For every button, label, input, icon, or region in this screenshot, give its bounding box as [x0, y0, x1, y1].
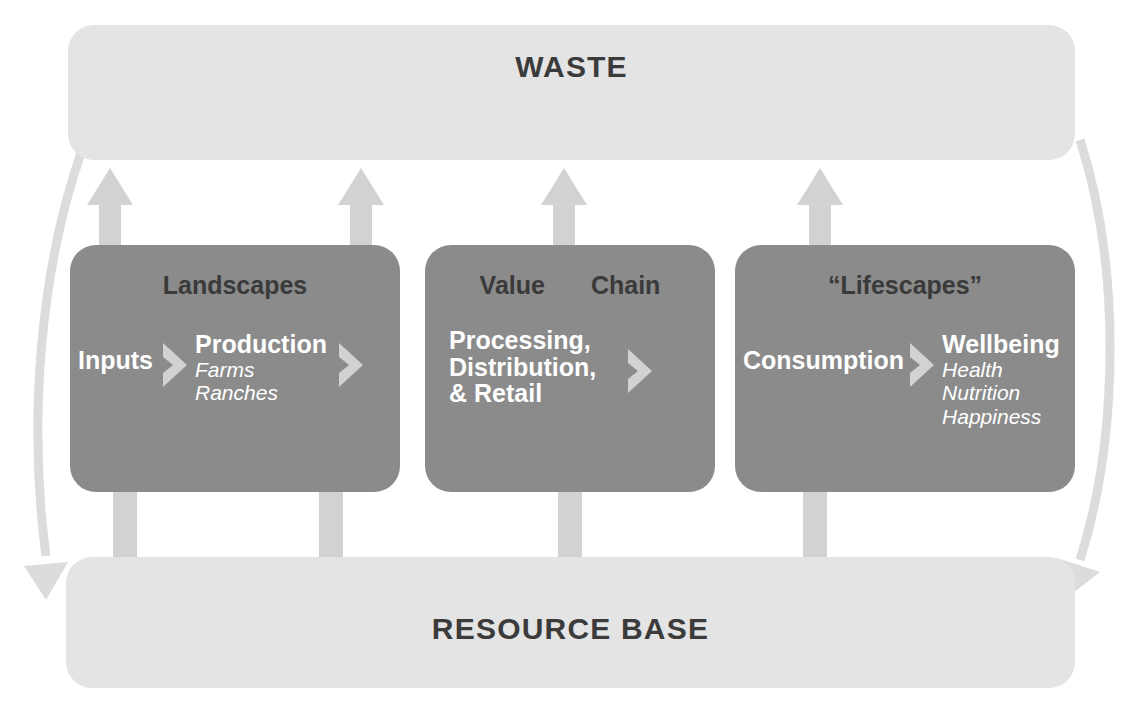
node-production-label: Production [195, 331, 327, 358]
stage-row-valuechain: Processing, Distribution, & Retail [425, 327, 739, 487]
stage-title-valuechain: Value Chain [425, 271, 715, 300]
node-processing-distribution-retail: Processing, Distribution, & Retail [449, 327, 596, 407]
chevron-right-icon [159, 343, 191, 387]
node-wellbeing-sub-health: Health [942, 358, 1060, 382]
node-inputs-label: Inputs [78, 347, 153, 374]
chevron-right-icon [335, 343, 367, 387]
stage-box-valuechain: Value Chain Processing, Distribution, & … [425, 245, 715, 492]
stage-title-valuechain-part1: Value [480, 271, 545, 300]
stage-title-lifescapes: “Lifescapes” [735, 271, 1075, 300]
stage-title-landscapes: Landscapes [70, 271, 400, 300]
waste-label: WASTE [515, 50, 628, 84]
resource-base-band: RESOURCE BASE [66, 557, 1075, 688]
stage-row-landscapes: Inputs Production Farms Ranches [70, 327, 408, 487]
chevron-right-icon [906, 343, 938, 387]
chevron-right-icon [624, 349, 656, 393]
node-pdr-line3: & Retail [449, 380, 596, 407]
node-pdr-line1: Processing, [449, 327, 596, 354]
node-production-sub-ranches: Ranches [195, 381, 327, 405]
diagram-canvas: WASTE Landscapes Inputs Production Farms… [0, 0, 1132, 719]
node-wellbeing-label: Wellbeing [942, 331, 1060, 358]
node-production: Production Farms Ranches [195, 331, 327, 405]
stage-box-landscapes: Landscapes Inputs Production Farms Ranch… [70, 245, 400, 492]
node-consumption-label: Consumption [743, 347, 904, 374]
node-inputs: Inputs [78, 347, 153, 374]
resource-base-label: RESOURCE BASE [432, 612, 709, 646]
node-consumption: Consumption [743, 347, 904, 374]
node-pdr-line2: Distribution, [449, 354, 596, 381]
stage-box-lifescapes: “Lifescapes” Consumption Wellbeing Healt… [735, 245, 1075, 492]
node-production-sub-farms: Farms [195, 358, 327, 382]
stage-row-lifescapes: Consumption Wellbeing Health Nutrition H… [735, 327, 1083, 487]
node-wellbeing: Wellbeing Health Nutrition Happiness [942, 331, 1060, 428]
waste-band: WASTE [68, 25, 1075, 160]
node-wellbeing-sub-happiness: Happiness [942, 405, 1060, 429]
stage-title-valuechain-part2: Chain [591, 271, 660, 300]
node-wellbeing-sub-nutrition: Nutrition [942, 381, 1060, 405]
